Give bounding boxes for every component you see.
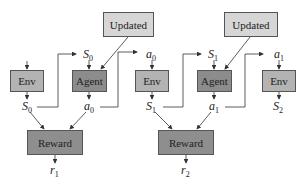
agent-box-1: Agent: [197, 70, 232, 92]
symbol-s1-bottom: S1: [146, 100, 156, 115]
env-label-1: Env: [143, 75, 161, 87]
updated-label-1: Updated: [232, 19, 269, 31]
symbol-a1-top: a1: [274, 48, 284, 63]
env-label-2: Env: [270, 75, 288, 87]
env-box-2: Env: [262, 70, 296, 92]
symbol-s0-bottom: S0: [22, 100, 32, 115]
reward-box-0: Reward: [27, 130, 83, 155]
updated-box-0: Updated: [103, 12, 154, 37]
symbol-s0-top: S0: [83, 48, 93, 63]
env-box-0: Env: [10, 70, 44, 92]
env-box-1: Env: [135, 70, 169, 92]
updated-label-0: Updated: [110, 19, 147, 31]
symbol-s1-top: S1: [208, 48, 218, 63]
symbol-a0-bottom: a0: [84, 100, 94, 115]
symbol-r1: r1: [50, 164, 59, 179]
symbol-s2-bottom: S2: [273, 100, 283, 115]
agent-label-0: Agent: [76, 75, 103, 87]
symbol-a0-top: a0: [146, 48, 156, 63]
env-label-0: Env: [18, 75, 36, 87]
reward-label-0: Reward: [38, 137, 72, 149]
symbol-a1-bottom: a1: [209, 100, 219, 115]
symbol-r2: r2: [181, 164, 190, 179]
reward-label-1: Reward: [169, 137, 203, 149]
agent-box-0: Agent: [72, 70, 107, 92]
agent-label-1: Agent: [201, 75, 228, 87]
reward-box-1: Reward: [158, 130, 214, 155]
rl-loop-diagram: Updated Updated Env Agent Env Agent Env …: [0, 0, 306, 184]
updated-box-1: Updated: [224, 12, 278, 37]
